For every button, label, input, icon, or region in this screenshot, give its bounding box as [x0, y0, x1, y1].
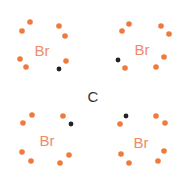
carbon-electron-dot — [124, 114, 129, 119]
bromine-electron-dot — [158, 23, 164, 29]
bromine-electron-dot — [161, 148, 167, 154]
bromine-atom-label: Br — [135, 41, 150, 58]
bromine-electron-dot — [153, 64, 159, 70]
bromine-electron-dot — [126, 21, 132, 27]
bromine-electron-dot — [56, 23, 62, 29]
bromine-electron-dot — [60, 113, 66, 119]
bromine-electron-dot — [23, 64, 29, 70]
bromine-electron-dot — [118, 151, 124, 157]
carbon-electron-dot — [116, 58, 121, 63]
bromine-electron-dot — [161, 54, 167, 60]
bromine-atom-label: Br — [134, 134, 149, 151]
bromine-atom-label: Br — [40, 132, 55, 149]
bromine-electron-dot — [117, 121, 123, 127]
bromine-electron-dot — [62, 33, 68, 39]
bromine-electron-dot — [119, 28, 125, 34]
bromine-electron-dot — [27, 19, 33, 25]
bromine-electron-dot — [57, 160, 63, 166]
bromine-electron-dot — [155, 158, 161, 164]
carbon-electron-dot — [57, 67, 62, 72]
bromine-electron-dot — [28, 158, 34, 164]
bromine-electron-dot — [153, 113, 159, 119]
carbon-electron-dot — [69, 122, 74, 127]
diagram-canvas: BrBrBrBrC — [0, 0, 186, 184]
bromine-electron-dot — [19, 28, 25, 34]
bromine-electron-dot — [17, 56, 23, 62]
lewis-structure-diagram: BrBrBrBrC — [0, 0, 186, 184]
bromine-electron-dot — [66, 152, 72, 158]
bromine-electron-dot — [63, 58, 69, 64]
bromine-atom-label: Br — [35, 42, 50, 59]
carbon-atom-label: C — [88, 88, 99, 105]
bromine-electron-dot — [29, 112, 35, 118]
bromine-electron-dot — [126, 160, 132, 166]
bromine-electron-dot — [20, 120, 26, 126]
bromine-electron-dot — [122, 65, 128, 71]
bromine-electron-dot — [166, 31, 172, 37]
bromine-electron-dot — [19, 149, 25, 155]
bromine-electron-dot — [162, 120, 168, 126]
